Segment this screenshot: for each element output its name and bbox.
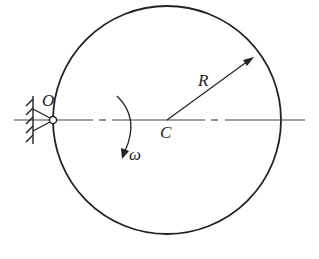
- label-radius: R: [197, 71, 209, 90]
- label-omega: ω: [129, 145, 141, 164]
- label-center: C: [160, 123, 172, 142]
- pivot-pin: [49, 116, 56, 123]
- label-pivot: O: [42, 91, 54, 110]
- disk-diagram: O R C ω: [0, 0, 319, 259]
- radius-arrow: [167, 57, 254, 120]
